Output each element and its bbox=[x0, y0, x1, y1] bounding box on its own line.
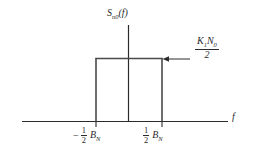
b-subscript-right: N bbox=[158, 135, 162, 142]
frequency-axis-label: f bbox=[232, 112, 235, 122]
one-half-fraction-left: 1 2 bbox=[81, 126, 87, 145]
amplitude-denominator: 2 bbox=[195, 50, 219, 60]
bandwidth-symbol-right: BN bbox=[152, 129, 162, 142]
fraction-denominator-right: 2 bbox=[143, 136, 149, 145]
one-half-fraction-right: 1 2 bbox=[143, 126, 149, 145]
k-symbol: K bbox=[197, 35, 204, 46]
amplitude-arrowhead bbox=[163, 56, 170, 61]
psd-axis-label: Sn0(f) bbox=[107, 8, 128, 21]
figure-canvas bbox=[0, 0, 259, 156]
tick-label-positive-half-bandwidth: 1 2 BN bbox=[143, 126, 163, 145]
bandwidth-symbol-left: BN bbox=[90, 129, 100, 142]
amplitude-annotation: K1N0 2 bbox=[195, 36, 219, 60]
tick-label-negative-half-bandwidth: − 1 2 BN bbox=[73, 126, 100, 145]
negative-sign: − bbox=[73, 130, 79, 141]
psd-figure: Sn0(f) f K1N0 2 − 1 2 BN 1 2 BN bbox=[0, 0, 259, 156]
psd-argument: (f) bbox=[119, 7, 128, 18]
b-subscript-left: N bbox=[96, 135, 100, 142]
n-symbol: N bbox=[207, 35, 214, 46]
amplitude-fraction: K1N0 2 bbox=[195, 36, 219, 60]
amplitude-numerator: K1N0 bbox=[195, 36, 219, 50]
fraction-denominator-left: 2 bbox=[81, 136, 87, 145]
n-subscript: 0 bbox=[214, 41, 217, 48]
